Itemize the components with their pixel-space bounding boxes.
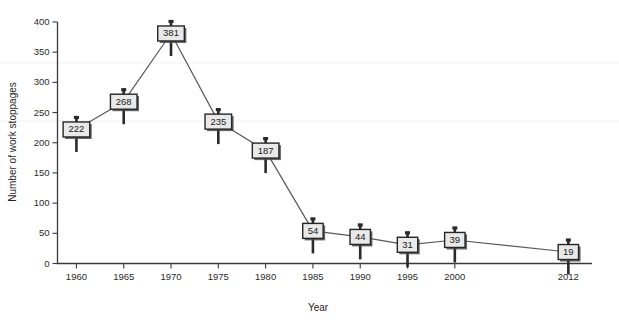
data-point-label: 187 [258,145,274,156]
x-tick-label: 1985 [302,271,323,282]
y-tick-label: 0 [44,258,49,269]
work-stoppages-line-chart: 050100150200250300350400 196019651970197… [0,0,619,329]
x-tick-label: 1965 [113,271,134,282]
data-point-label: 19 [563,246,574,257]
y-tick-label: 100 [34,197,50,208]
data-point-label: 44 [355,231,366,242]
x-tick-label: 1995 [397,271,418,282]
x-tick-label: 1980 [255,271,276,282]
y-tick-label: 350 [34,46,50,57]
chart-canvas: 050100150200250300350400 196019651970197… [0,0,619,329]
y-tick-label: 50 [39,227,50,238]
x-tick-label: 2000 [444,271,465,282]
x-tick-label: 1960 [66,271,87,282]
data-point-label: 39 [450,234,461,245]
y-axis-title: Number of work stoppages [7,82,18,202]
x-tick-label: 1990 [350,271,371,282]
data-point-label: 54 [308,225,319,236]
y-tick-label: 200 [34,137,50,148]
y-tick-label: 300 [34,76,50,87]
data-point-label: 222 [68,123,84,134]
y-tick-label: 150 [34,167,50,178]
x-axis-title: Year [308,302,329,313]
data-point-label: 381 [163,27,179,38]
data-point-label: 31 [402,239,413,250]
data-point-label: 235 [210,116,226,127]
y-tick-label: 250 [34,107,50,118]
x-tick-label: 1975 [208,271,229,282]
y-tick-label: 400 [34,16,50,27]
x-tick-label: 1970 [160,271,181,282]
data-point-label: 268 [116,96,132,107]
